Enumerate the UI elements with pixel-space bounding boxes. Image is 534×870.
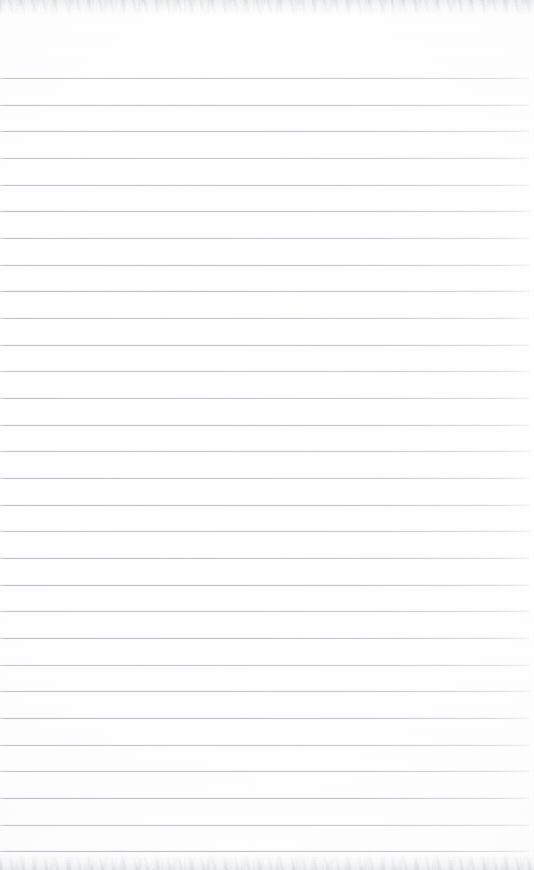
scanned-page: [0, 0, 534, 870]
writing-area: [0, 78, 534, 851]
rule-line: [0, 851, 530, 852]
